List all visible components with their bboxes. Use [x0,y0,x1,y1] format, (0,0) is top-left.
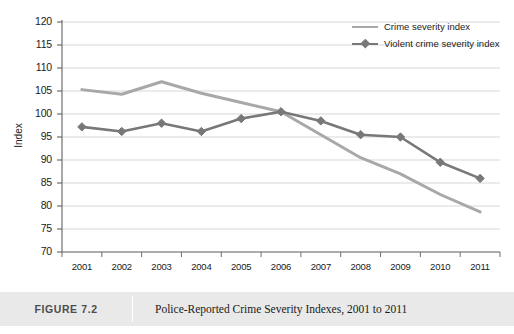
figure-caption-bar: FIGURE 7.2 Police-Reported Crime Severit… [0,292,514,326]
legend-swatch-line-icon [352,21,378,33]
figure-number: FIGURE 7.2 [0,303,132,315]
gridlines [62,22,500,252]
axis-lines [62,20,500,252]
y-axis-ticks [57,22,62,252]
legend-item-crime-severity-index: Crime severity index [352,18,499,35]
chart-plot-area: Index 707580859095100105110115120 200120… [0,0,514,285]
data-series [78,82,485,212]
figure-caption-title: Police-Reported Crime Severity Indexes, … [133,303,407,315]
legend-item-violent-crime-severity-index: Violent crime severity index [352,35,499,52]
figure-container: Index 707580859095100105110115120 200120… [0,0,514,334]
x-axis-ticks [62,252,500,257]
legend-label: Violent crime severity index [384,38,499,49]
legend-swatch-line-diamond-icon [352,38,378,50]
chart-legend: Crime severity index Violent crime sever… [352,18,499,52]
legend-label: Crime severity index [384,21,470,32]
